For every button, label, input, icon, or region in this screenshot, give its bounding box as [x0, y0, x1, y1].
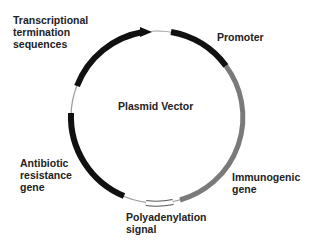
termination-label: Transcriptional termination sequences: [13, 14, 88, 50]
immunogenic-label: Immunogenic gene: [232, 171, 300, 195]
plasmid-diagram: Plasmid Vector Transcriptional terminati…: [0, 0, 316, 250]
polyadenylation-label: Polyadenylation signal: [126, 211, 207, 235]
termination-arrow-icon: [140, 27, 152, 37]
antibiotic-segment: [71, 113, 124, 196]
plasmid-title: Plasmid Vector: [118, 100, 193, 112]
antibiotic-label: Antibiotic resistance gene: [20, 157, 72, 193]
polyadenylation-box: [146, 202, 173, 204]
promoter-label: Promoter: [217, 31, 264, 43]
